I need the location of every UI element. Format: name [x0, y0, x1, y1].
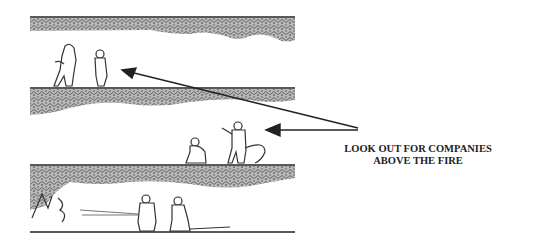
diagram-scene — [0, 0, 541, 244]
middle-floor-slab — [30, 165, 295, 210]
hose-stream — [80, 210, 138, 215]
upper-floor-slab — [30, 88, 295, 115]
diagram-caption: LOOK OUT FOR COMPANIES ABOVE THE FIRE — [318, 143, 518, 167]
caption-line-2: ABOVE THE FIRE — [318, 155, 518, 167]
middle-floor-firefighters — [186, 122, 265, 163]
upper-floor-firefighters — [54, 44, 107, 86]
lower-floor-firefighters — [138, 195, 230, 231]
caption-line-1: LOOK OUT FOR COMPANIES — [318, 143, 518, 155]
ceiling-slab — [30, 17, 295, 42]
